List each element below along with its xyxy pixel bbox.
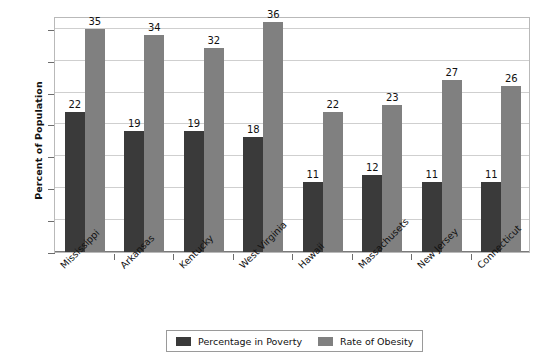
bar-value-label: 26: [505, 73, 518, 84]
bar-poverty: [65, 112, 85, 252]
bar-obesity: [85, 29, 105, 252]
bar-obesity: [144, 35, 164, 252]
bar-value-label: 23: [386, 92, 399, 103]
bar-value-label: 11: [425, 169, 438, 180]
bar-value-label: 22: [326, 99, 339, 110]
y-axis-title: Percent of Population: [33, 51, 44, 231]
bar-value-label: 34: [148, 22, 161, 33]
bar-poverty: [243, 137, 263, 252]
y-axis-tick-mark: [48, 221, 54, 222]
x-axis-tick-mark: [471, 254, 472, 260]
bar-value-label: 36: [267, 9, 280, 20]
legend-swatch-poverty: [176, 337, 191, 346]
bar-value-label: 11: [485, 169, 498, 180]
gridline: [55, 60, 529, 61]
bar-value-label: 19: [187, 118, 200, 129]
y-axis-tick-mark: [48, 30, 54, 31]
chart-legend: Percentage in PovertyRate of Obesity: [166, 330, 423, 352]
bar-obesity: [323, 112, 343, 252]
bar-obesity: [204, 48, 224, 252]
bar-value-label: 18: [247, 124, 260, 135]
x-axis-tick-mark: [173, 254, 174, 260]
y-axis-tick-mark: [48, 189, 54, 190]
x-axis-tick-mark: [352, 254, 353, 260]
plot-area: 22351934193218361122122311271126: [54, 17, 530, 253]
bar-poverty: [124, 131, 144, 252]
bar-obesity: [263, 22, 283, 252]
bar-value-label: 12: [366, 162, 379, 173]
legend-entry: Rate of Obesity: [318, 336, 413, 347]
gridline: [55, 28, 529, 29]
x-axis-tick-mark: [292, 254, 293, 260]
y-axis-tick-mark: [48, 94, 54, 95]
x-axis-tick-mark: [114, 254, 115, 260]
bar-value-label: 19: [128, 118, 141, 129]
x-axis-tick-mark: [233, 254, 234, 260]
bar-value-label: 32: [207, 35, 220, 46]
bar-poverty: [184, 131, 204, 252]
y-axis-tick-mark: [48, 125, 54, 126]
bar-value-label: 27: [445, 67, 458, 78]
y-axis-tick-mark: [48, 253, 54, 254]
legend-entry: Percentage in Poverty: [176, 336, 302, 347]
bar-value-label: 22: [68, 99, 81, 110]
y-axis-tick-mark: [48, 157, 54, 158]
y-axis-tick-mark: [48, 62, 54, 63]
bar-chart: Percent of Population 223519341932183611…: [0, 0, 546, 361]
legend-label: Rate of Obesity: [340, 336, 413, 347]
bar-value-label: 35: [88, 16, 101, 27]
legend-swatch-obesity: [318, 337, 333, 346]
x-axis-tick-mark: [411, 254, 412, 260]
legend-label: Percentage in Poverty: [198, 336, 302, 347]
bar-value-label: 11: [306, 169, 319, 180]
